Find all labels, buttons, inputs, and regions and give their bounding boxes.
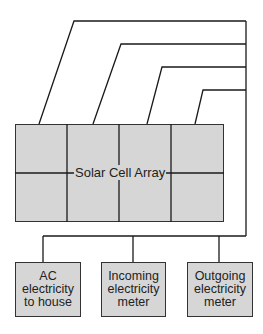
ac-house-label: AC electricity to house	[15, 262, 81, 317]
outgoing-meter-label: Outgoing electricity meter	[187, 262, 253, 317]
array-label: Solar Cell Array	[74, 165, 166, 180]
incoming-meter-label: Incoming electricity meter	[101, 262, 166, 317]
